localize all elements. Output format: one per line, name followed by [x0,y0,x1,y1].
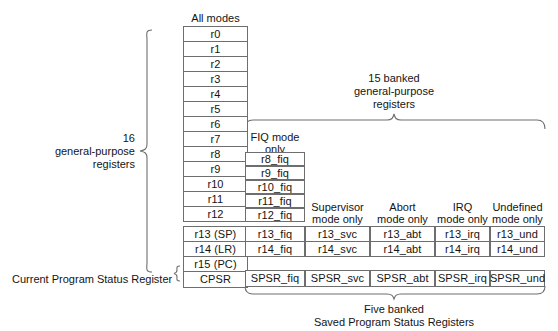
register-cell: r4 [183,86,248,102]
register-cell: r3 [183,71,248,87]
status-register-cell-spsr-irq: SPSR_irq [435,270,490,287]
column-header-svc-line2: mode only [305,213,370,225]
cpsr-label: Current Program Status Register [12,273,172,286]
register-cell: r9_fiq [245,166,305,180]
status-register-cell-cpsr: CPSR [183,271,248,288]
register-cell: r14_irq [435,241,490,257]
column-header-irq-line1: IRQ [435,201,490,213]
register-cell: r10_fiq [245,180,305,194]
column-header-fiq-line1: FIQ mode [245,131,305,143]
top-brace-banked-registers [245,114,545,129]
register-cell: r14_abt [370,241,435,257]
top-brace-label-line2: general-purpose [314,85,474,98]
bottom-brace-label-line1: Five banked [284,303,504,316]
register-cell: r10 [183,176,248,192]
register-cell: r13_irq [435,226,490,242]
status-register-cell-spsr-fiq: SPSR_fiq [245,270,305,287]
register-cell: r11 [183,191,248,207]
column-header-abt-line1: Abort [370,201,435,213]
register-cell: r9 [183,161,248,177]
column-header-irq-line2: mode only [435,213,490,225]
left-brace-label-line2: general-purpose [20,145,135,158]
register-cell: r2 [183,56,248,72]
register-cell: r5 [183,101,248,117]
column-header-und-line2: mode only [490,213,545,225]
bottom-brace-label-line2: Saved Program Status Registers [284,316,504,329]
column-header-all-modes: All modes [183,12,248,24]
register-cell: r12 [183,206,248,222]
cpsr-connector-brace [174,266,180,281]
register-cell: r1 [183,41,248,57]
top-brace-label-line3: registers [314,98,474,111]
register-cell: r6 [183,116,248,132]
arm-register-diagram: All modes FIQ mode only Supervisor mode … [0,0,558,331]
status-register-cell-spsr-und: SPSR_und [490,270,545,287]
register-cell: r11_fiq [245,194,305,208]
column-header-abt-line2: mode only [370,213,435,225]
register-cell: r8 [183,146,248,162]
column-header-und-line1: Undefined [490,201,545,213]
register-cell: r13_svc [305,226,370,242]
left-brace-general-purpose [140,30,152,272]
register-cell: r13 (SP) [183,226,248,242]
register-cell: r14_fiq [245,241,305,257]
register-cell: r12_fiq [245,208,305,222]
register-cell: r13_abt [370,226,435,242]
status-register-cell-spsr-abt: SPSR_abt [370,270,435,287]
register-cell: r8_fiq [245,152,305,166]
bottom-brace-saved-status-registers [245,286,545,299]
register-cell: r14_und [490,241,545,257]
status-register-cell-spsr-svc: SPSR_svc [305,270,370,287]
register-cell: r14 (LR) [183,241,248,257]
register-cell: r13_fiq [245,226,305,242]
register-cell: r14_svc [305,241,370,257]
register-cell: r0 [183,26,248,42]
left-brace-label-line1: 16 [20,132,135,145]
register-cell: r7 [183,131,248,147]
column-header-svc-line1: Supervisor [305,201,370,213]
top-brace-label-line1: 15 banked [314,72,474,85]
left-brace-label-line3: registers [20,158,135,171]
register-cell: r15 (PC) [183,256,248,272]
register-cell: r13_und [490,226,545,242]
